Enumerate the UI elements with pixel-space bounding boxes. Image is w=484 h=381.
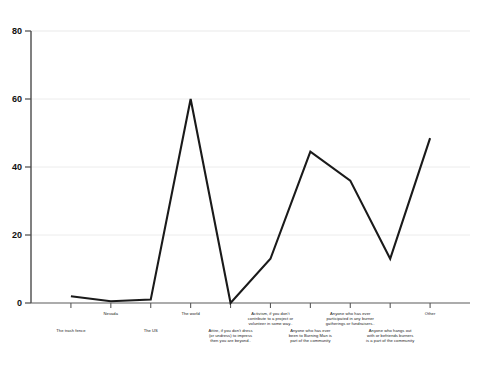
x-axis-label-5: Activism, if you don't contribute to a p… — [232, 311, 308, 326]
ytick-label-60: 60 — [12, 94, 22, 104]
x-tick-marks — [71, 303, 430, 308]
y-tick-marks — [25, 31, 31, 303]
ytick-label-80: 80 — [12, 26, 22, 36]
data-series-line — [71, 99, 430, 303]
x-axis-label-0: The trash fence — [33, 328, 109, 333]
x-axis-label-1: Nevada — [73, 311, 149, 316]
x-axis-label-4: Attire, if you don't dress (or undress) … — [193, 328, 269, 343]
x-axis-label-2: The US — [113, 328, 189, 333]
x-axis-label-8: Anyone who hangs out with or befriends b… — [352, 328, 428, 343]
ytick-label-0: 0 — [17, 298, 22, 308]
x-axis-label-3: The world — [153, 311, 229, 316]
chart-container: 80 60 40 20 0 The trash fenceNevadaThe U… — [0, 0, 484, 381]
gridlines — [31, 31, 470, 235]
x-axis-label-9: Other — [392, 311, 468, 316]
x-axis-label-7: Anyone who has ever participated in any … — [312, 311, 388, 326]
x-axis-label-6: Anyone who has ever been to Burning Man … — [272, 328, 348, 343]
ytick-label-40: 40 — [12, 162, 22, 172]
ytick-label-20: 20 — [12, 230, 22, 240]
